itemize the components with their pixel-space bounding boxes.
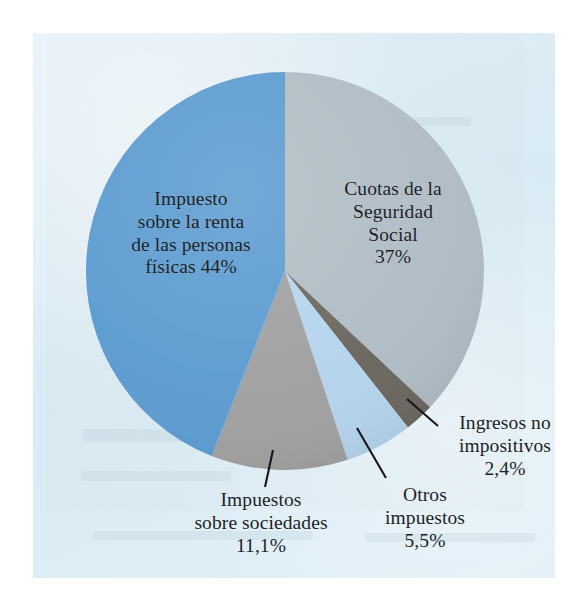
pie-label-sociedades-line-2: sobre sociedades [150, 512, 372, 535]
pie-label-seguridad-line-2: Seguridad [310, 201, 476, 224]
pie-label-seguridad-line-3: Social [310, 224, 476, 247]
pie-label-irpf-line-1: Impuesto [96, 188, 286, 211]
pie-label-irpf-line-3: de las personas [96, 234, 286, 257]
pie-label-ingresos-line-1: Ingresos no [432, 412, 578, 435]
pie-label-irpf-line-4: físicas 44% [96, 256, 286, 279]
pie-label-seguridad-social: Cuotas de la Seguridad Social 37% [310, 178, 476, 269]
pie-label-irpf-line-2: sobre la renta [96, 211, 286, 234]
pie-chart-figure: Impuesto sobre la renta de las personas … [0, 0, 581, 602]
pie-label-sociedades-line-1: Impuestos [150, 489, 372, 512]
pie-label-otros-line-2: impuestos [366, 507, 484, 530]
pie-label-otros-impuestos: Otros impuestos 5,5% [366, 484, 484, 552]
pie-label-impuestos-sociedades: Impuestos sobre sociedades 11,1% [150, 489, 372, 557]
pie-label-sociedades-line-3: 11,1% [150, 535, 372, 558]
pie-label-ingresos-line-3: 2,4% [432, 458, 578, 481]
pie-label-irpf: Impuesto sobre la renta de las personas … [96, 188, 286, 279]
pie-label-ingresos-no-impositivos: Ingresos no impositivos 2,4% [432, 412, 578, 480]
pie-label-ingresos-line-2: impositivos [432, 435, 578, 458]
pie-label-seguridad-line-4: 37% [310, 246, 476, 269]
pie-chart: Impuesto sobre la renta de las personas … [0, 0, 581, 602]
pie-label-otros-line-3: 5,5% [366, 530, 484, 553]
pie-label-seguridad-line-1: Cuotas de la [310, 178, 476, 201]
pie-label-otros-line-1: Otros [366, 484, 484, 507]
